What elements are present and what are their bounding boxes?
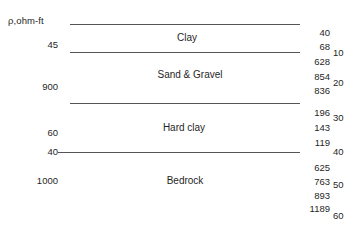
measured-value: 40 [319,28,330,38]
measured-value: 196 [314,108,330,118]
depth-scale-tick-label: 40 [333,147,344,157]
resistivity-value: 1000 [37,176,58,186]
depth-scale-tick-label: 50 [333,180,344,190]
layer-name-label: Bedrock [167,176,204,186]
measured-value: 893 [314,191,330,201]
resistivity-value: 900 [42,82,58,92]
layer-name-label: Sand & Gravel [157,70,222,80]
measured-value: 68 [319,42,330,52]
measured-value: 763 [314,177,330,187]
layer-boundary-line [70,52,300,53]
measured-value: 628 [314,57,330,67]
measured-value: 836 [314,86,330,96]
depth-scale-tick-label: 10 [333,48,344,58]
layer-boundary-line [58,152,300,153]
layer-boundary-line [70,103,300,104]
measured-value: 119 [315,138,330,148]
depth-scale-tick-label: 20 [333,78,344,88]
depth-scale-tick-label: 30 [333,113,344,123]
resistivity-value: 45 [47,40,58,50]
resistivity-value: 40 [47,147,58,157]
resistivity-column-header: ρ,ohm-ft [8,16,44,26]
measured-value: 1189 [310,204,330,214]
geoelectric-section-figure: ρ,ohm-ft4590060401000ClaySand & GravelHa… [0,0,350,227]
measured-value: 625 [314,163,330,173]
depth-scale-tick-label: 60 [333,211,344,221]
layer-name-label: Hard clay [163,123,205,133]
resistivity-value: 60 [47,128,58,138]
layer-boundary-line [70,24,300,25]
layer-name-label: Clay [177,33,197,43]
measured-value: 143 [314,123,330,133]
measured-value: 854 [314,72,330,82]
